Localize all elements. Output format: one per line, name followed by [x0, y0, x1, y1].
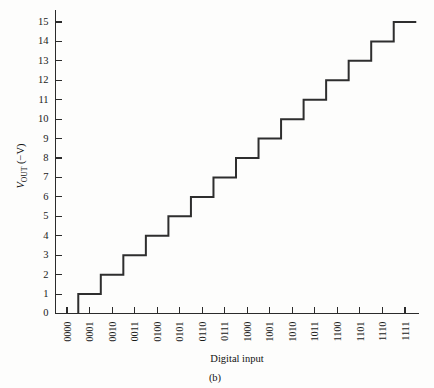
x-tick-label: 1010 [287, 322, 298, 342]
x-tick-label: 1111 [400, 322, 411, 341]
x-tick-label: 0001 [84, 322, 95, 342]
x-tick-label: 0010 [107, 322, 118, 342]
y-tick-label: 3 [43, 249, 48, 260]
y-tick-label: 5 [43, 210, 48, 221]
y-tick-marks [56, 22, 62, 314]
y-tick-label: 13 [38, 55, 49, 66]
x-tick-labels: 0000000100100011010001010110011110001001… [62, 322, 411, 342]
x-tick-marks [67, 307, 405, 314]
x-tick-label: 0101 [174, 322, 185, 342]
y-tick-label: 9 [43, 133, 48, 144]
y-tick-label: 6 [43, 191, 48, 202]
x-tick-label: 0111 [219, 322, 230, 341]
y-tick-label: 10 [38, 113, 49, 124]
y-tick-label: 11 [38, 94, 48, 105]
x-tick-label: 1000 [242, 322, 253, 342]
x-tick-label: 1011 [309, 322, 320, 342]
y-tick-label: 14 [38, 35, 49, 46]
y-tick-label: 1 [43, 288, 48, 299]
svg-text:VOUT (−V): VOUT (−V) [15, 143, 29, 189]
x-tick-label: 1101 [355, 322, 366, 342]
y-tick-label: 7 [43, 171, 48, 182]
x-tick-label: 1001 [264, 322, 275, 342]
y-tick-label: 8 [43, 152, 48, 163]
x-tick-label: 1100 [332, 322, 343, 342]
x-tick-label: 0100 [152, 322, 163, 342]
y-tick-label: 2 [43, 269, 48, 280]
x-axis-title: Digital input [210, 353, 263, 364]
staircase-data-line [78, 22, 416, 314]
x-tick-label: 1110 [377, 322, 388, 341]
y-axis-title: VOUT (−V) [15, 143, 29, 189]
y-tick-label: 12 [38, 74, 49, 85]
y-tick-label: 0 [43, 307, 48, 318]
x-tick-label: 0000 [62, 322, 73, 342]
dac-staircase-chart: 0123456789101112131415 00000001001000110… [0, 0, 434, 388]
y-tick-label: 4 [43, 230, 49, 241]
figure-container: 0123456789101112131415 00000001001000110… [0, 0, 434, 388]
y-tick-labels: 0123456789101112131415 [38, 16, 49, 319]
figure-caption: (b) [209, 372, 222, 384]
x-tick-label: 0011 [129, 322, 140, 342]
y-tick-label: 15 [38, 16, 49, 27]
x-tick-label: 0110 [197, 322, 208, 342]
